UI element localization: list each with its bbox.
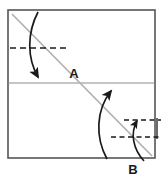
label-a: A — [69, 66, 79, 81]
diagram-canvas: A B — [0, 0, 165, 180]
origami-fold-diagram: A B — [0, 0, 165, 180]
label-b: B — [128, 162, 137, 177]
